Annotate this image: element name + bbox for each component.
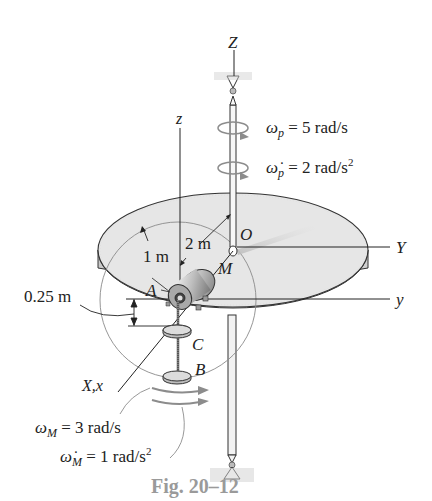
label-M: M	[217, 259, 233, 278]
figure-caption: Fig. 20–12	[151, 475, 239, 498]
offset-dimension	[80, 299, 170, 326]
label-omega-p: ωp = 5 rad/s	[266, 118, 348, 140]
label-omegadot-p: ω̇p = 2 rad/s2	[266, 156, 353, 180]
label-C: C	[192, 335, 204, 354]
label-y: y	[394, 290, 404, 309]
figure-diagram: Z z Y y X,x O M A C B 2 m 1 m 0.25 m ωp …	[0, 0, 432, 501]
label-O: O	[240, 225, 252, 244]
label-z: z	[175, 110, 183, 127]
label-X-x: X,x	[81, 377, 103, 394]
label-A: A	[145, 281, 157, 300]
motor-rotation-arrows	[152, 388, 200, 404]
label-omega-M: ωM = 3 rad/s	[35, 418, 121, 440]
dim-0-25m: 0.25 m	[24, 287, 71, 306]
lower-shaft	[210, 315, 254, 482]
dim-1m: 1 m	[143, 247, 169, 266]
dim-2m: 2 m	[185, 234, 211, 253]
disk-B	[163, 371, 191, 384]
label-omegadot-M: ω̇M = 1 rad/s2	[60, 445, 151, 469]
label-Z: Z	[228, 33, 238, 52]
gear-C	[163, 325, 191, 338]
label-B: B	[195, 360, 206, 379]
label-Y: Y	[396, 238, 407, 257]
